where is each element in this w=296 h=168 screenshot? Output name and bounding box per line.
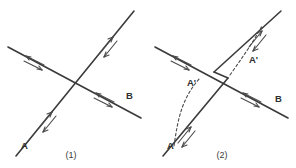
panel2-label-a: A (167, 140, 174, 151)
panel2-dashed-curve-right (230, 26, 262, 75)
panel-1: A B (1) (8, 11, 141, 160)
optics-crossing-lines-diagram: A B (1) (0, 0, 296, 168)
panel2-arrow-mark-right (241, 93, 261, 107)
figure-root: A B (1) (0, 0, 296, 168)
panel2-parallelogram-connector (214, 72, 228, 78)
panel1-arrow-mark-right (94, 93, 114, 107)
panel1-caption: (1) (66, 150, 77, 160)
panel2-arrow-mark-left (171, 56, 191, 70)
panel1-arrow-mark-left (24, 56, 44, 70)
panel1-arrow-mark-upper (100, 37, 117, 57)
panel1-label-b: B (126, 90, 133, 101)
panel1-label-a: A (21, 140, 28, 151)
panel2-arrow-mark-lower (178, 127, 195, 147)
panel1-line-b-descending (8, 47, 141, 118)
panel2-line-a-upper-segment (214, 11, 281, 72)
panel2-dashed-curve-left (174, 78, 200, 146)
panel2-label-a-prime-left: A' (187, 77, 196, 88)
panel2-line-b-descending (155, 47, 288, 118)
panel2-label-a-prime-right: A' (249, 54, 258, 65)
panel1-arrow-mark-lower (39, 112, 56, 132)
panel2-label-b: B (275, 93, 282, 104)
panel-2: A B A' A' (2) (155, 11, 288, 160)
panel2-caption: (2) (217, 150, 228, 160)
